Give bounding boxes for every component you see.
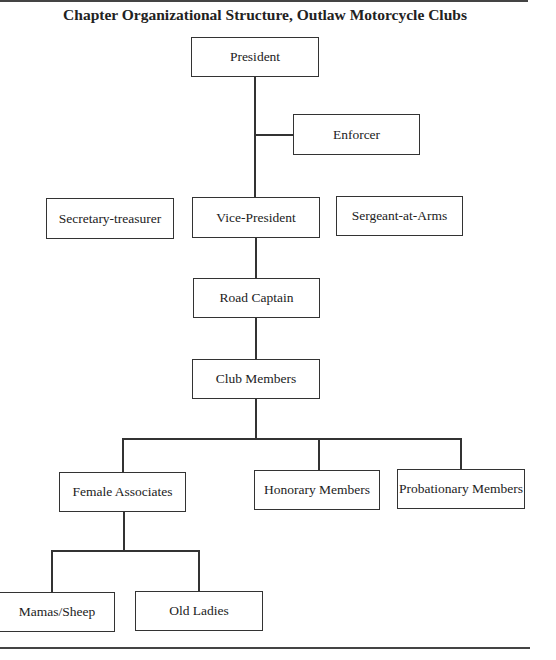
node-honorary-members: Honorary Members xyxy=(254,470,380,510)
node-female-associates: Female Associates xyxy=(59,472,186,512)
diagram-title: Chapter Organizational Structure, Outlaw… xyxy=(0,6,530,24)
node-road-captain: Road Captain xyxy=(193,278,320,318)
connector-president-vp xyxy=(254,76,256,197)
node-club-members: Club Members xyxy=(192,359,320,399)
connector-to-mamas xyxy=(51,550,53,592)
connector-members-branch xyxy=(122,438,461,440)
node-sergeant-at-arms: Sergeant-at-Arms xyxy=(336,196,463,236)
bottom-rule xyxy=(0,647,530,649)
connector-members-down xyxy=(255,398,257,439)
connector-to-oldladies xyxy=(198,550,200,591)
connector-female-branch xyxy=(51,550,200,552)
node-probationary-members: Probationary Members xyxy=(397,469,525,509)
node-president: President xyxy=(191,37,319,77)
node-old-ladies: Old Ladies xyxy=(135,591,263,631)
connector-female-down xyxy=(123,512,125,551)
top-rule xyxy=(0,0,528,2)
connector-to-honorary xyxy=(318,438,320,470)
connector-to-female xyxy=(122,438,124,472)
node-vice-president: Vice-President xyxy=(192,197,320,238)
connector-to-probationary xyxy=(460,438,462,469)
connector-enforcer xyxy=(254,134,294,136)
connector-roadcaptain-members xyxy=(255,318,257,359)
node-enforcer: Enforcer xyxy=(293,114,420,155)
connector-vp-roadcaptain xyxy=(255,238,257,278)
node-secretary-treasurer: Secretary-treasurer xyxy=(46,198,174,239)
node-mamas-sheep: Mamas/Sheep xyxy=(0,592,115,632)
